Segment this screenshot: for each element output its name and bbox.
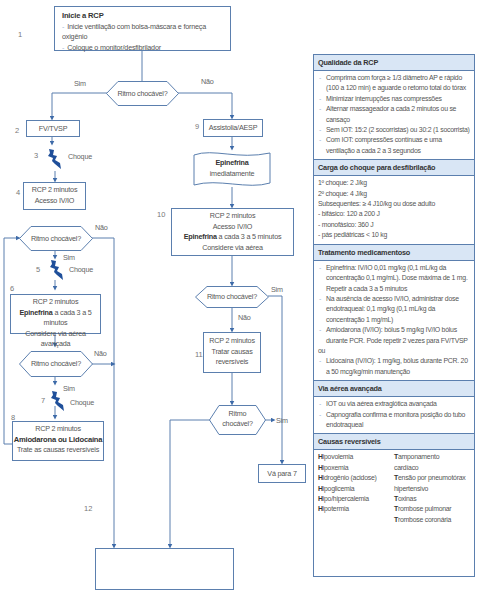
quality-item-4: Sem IOT: 15:2 (2 socorristas) ou 30:2 (1… <box>318 125 470 135</box>
cause-t-1: Tamponamento <box>394 452 470 462</box>
step-10-cpr-epinephrine: RCP 2 minutos Acesso IV/IO Epinefrina a … <box>171 208 294 256</box>
decision-a-no: Não <box>95 223 108 232</box>
step-9-asystole-pea: Assistolia/AESP <box>203 119 263 137</box>
shock-line-4: - bifásico: 120 a 200 J <box>318 209 470 219</box>
cause-t-3: Toxinas <box>394 494 470 504</box>
cause-h-2: Hipoxemia <box>318 463 394 473</box>
step-7-label: Choque <box>70 398 94 407</box>
drug-item-4: Lidocaína (IV/IO): 1 mg/kg, bólus durant… <box>318 356 470 377</box>
section-drugs-title: Tratamento medicamentoso <box>314 244 474 261</box>
quality-item-2: Minimizar interrupções nas compressões <box>318 94 470 104</box>
cause-h-4: Hipoglicemia <box>318 484 394 494</box>
step-2-label: FV/TVSP <box>27 121 79 136</box>
decision-shockable-b: Ritmo chocável? <box>19 351 93 377</box>
decision-d-line-2: chocável? <box>209 419 266 428</box>
step-1-bullet-2: Coloque o monitor/desfibrilador <box>67 43 161 52</box>
go-to-step-7: Vá para 7 <box>258 464 306 483</box>
decision-main-yes: Sim <box>74 79 86 88</box>
epinephrine-doc-title: Epinefrina <box>193 158 271 169</box>
step-6-cpr-epinephrine: RCP 2 minutos Epinefrina a cada 3 a 5 mi… <box>10 294 101 334</box>
decision-a-yes: Sim <box>63 253 75 262</box>
causes-h-column: Hipovolemia Hipoxemia Hidrogênio (acidos… <box>318 452 394 525</box>
decision-b-no: Não <box>94 349 107 358</box>
step-number-7: 7 <box>41 396 45 405</box>
step-11-cpr-reversible-causes: RCP 2 minutos Tratar causas reversíveis <box>203 332 261 373</box>
shock-line-1: 1º choque: 2 J/kg <box>318 178 470 188</box>
decision-c-yes: Sim <box>271 285 283 294</box>
cause-t-2-cont: hipertensivo <box>394 484 470 494</box>
step-1-bullet-1: Inicie ventilação com bolsa-máscara e fo… <box>62 22 206 42</box>
epinephrine-doc-subtitle: imediatamente <box>193 169 271 180</box>
cause-t-2: Tensão por pneumotórax <box>394 473 470 483</box>
section-causes-title: Causas reversíveis <box>314 433 474 450</box>
step-11-line-2: Tratar causas <box>204 347 260 358</box>
step-8-line-3: Trate as causas reversíveis <box>13 445 103 456</box>
drug-or: ou <box>318 346 470 356</box>
step-8-line-1: RCP 2 minutos <box>13 424 103 435</box>
decision-d-yes: Sim <box>276 416 288 425</box>
decision-c-label: Ritmo chocável? <box>195 292 269 301</box>
step-12-rosc-check <box>95 548 234 590</box>
step-8-drugs: Amiodarona ou Lidocaína <box>13 435 103 446</box>
step-number-2: 2 <box>15 126 19 135</box>
epinephrine-immediately-document: Epinefrina imediatamente <box>193 150 271 188</box>
section-quality-title: Qualidade da RCP <box>314 55 474 71</box>
step-2-vf-vt: FV/TVSP <box>26 120 80 137</box>
step-10-drug: Epinefrina <box>184 232 217 241</box>
step-10-line-2: Acesso IV/IO <box>172 222 293 233</box>
cause-t-5: Trombose coronária <box>394 515 470 525</box>
drug-item-2: Na ausência de acesso IV/IO, administrar… <box>318 294 470 325</box>
cause-t-1-cont: cardíaco <box>394 463 470 473</box>
drug-item-3: Amiodarona (IV/IO): bólus 5 mg/kg IV/IO … <box>318 325 470 346</box>
step-6-drug: Epinefrina <box>19 308 52 317</box>
go-to-7-label: Vá para 7 <box>259 465 305 482</box>
section-airway-body: IOT ou via aérea extraglótica avançada C… <box>314 397 474 433</box>
section-drugs-body: Epinefrina: IV/IO 0,01 mg/kg (0,1 mL/kg … <box>314 261 474 380</box>
decision-shockable-a: Ritmo chocável? <box>19 226 93 251</box>
decision-c-no: Não <box>238 313 251 322</box>
section-shock-title: Carga do choque para desfibrilação <box>314 159 474 176</box>
step-9-label: Assistolia/AESP <box>204 120 262 136</box>
step-11-line-1: RCP 2 minutos <box>204 336 260 347</box>
step-4-line-1: RCP 2 minutos <box>24 185 85 196</box>
lightning-bolt-icon <box>48 259 64 281</box>
decision-a-label: Ritmo chocável? <box>19 234 93 243</box>
step-3-label: Choque <box>68 152 92 161</box>
cause-h-1: Hipovolemia <box>318 452 394 462</box>
section-causes-body: Hipovolemia Hipoxemia Hidrogênio (acidos… <box>314 450 474 528</box>
lightning-bolt-icon <box>49 390 65 412</box>
decision-b-label: Ritmo chocável? <box>19 359 93 368</box>
step-8-cpr-antiarrhythmic: RCP 2 minutos Amiodarona ou Lidocaína Tr… <box>12 421 104 461</box>
quality-item-1: Comprima com força ≥ 1/3 diâmetro AP e r… <box>318 73 470 94</box>
section-airway-title: Via aérea avançada <box>314 380 474 397</box>
step-10-line-1: RCP 2 minutos <box>172 211 293 222</box>
shock-line-6: - pás pediátricas < 10 kg <box>318 230 470 240</box>
cause-h-5: Hipo/hipercalemia <box>318 494 394 504</box>
step-number-1: 1 <box>18 30 22 39</box>
shock-line-2: 2º choque: 4 J/kg <box>318 189 470 199</box>
decision-shockable-c: Ritmo chocável? <box>195 286 269 308</box>
airway-item-1: IOT ou via aérea extraglótica avançada <box>318 399 470 409</box>
step-number-3: 3 <box>34 151 38 160</box>
cause-h-3: Hidrogênio (acidose) <box>318 473 394 483</box>
decision-main-label: Ritmo chocável? <box>106 89 179 98</box>
shock-line-3: Subsequentes: ≥ 4 J10/kg ou dose adulto <box>318 199 470 209</box>
quality-item-5: Com IOT: compressões contínuas e uma ven… <box>318 135 470 156</box>
step-10-interval: a cada 3 a 5 minutos <box>217 232 282 241</box>
step-number-6: 6 <box>10 284 14 293</box>
quality-item-3: Alternar massageador a cada 2 minutos ou… <box>318 104 470 125</box>
step-4-line-2: Acesso IV/IO <box>24 196 85 207</box>
decision-shockable-d: Ritmo chocável? <box>209 405 266 435</box>
cause-t-4: Trombose pulmonar <box>394 504 470 514</box>
step-11-line-3: reversíveis <box>204 357 260 368</box>
step-number-12: 12 <box>84 504 92 513</box>
step-number-10: 10 <box>157 210 165 219</box>
decision-shockable-main: Ritmo chocável? <box>106 81 179 106</box>
step-number-4: 4 <box>16 188 20 197</box>
drug-item-1: Epinefrina: IV/IO 0,01 mg/kg (0,1 mL/kg … <box>318 263 470 294</box>
step-number-5: 5 <box>36 265 40 274</box>
step-number-11: 11 <box>195 350 203 359</box>
step-4-cpr-access: RCP 2 minutos Acesso IV/IO <box>23 182 86 210</box>
decision-main-no: Não <box>201 77 214 86</box>
step-12-content <box>95 493 234 535</box>
